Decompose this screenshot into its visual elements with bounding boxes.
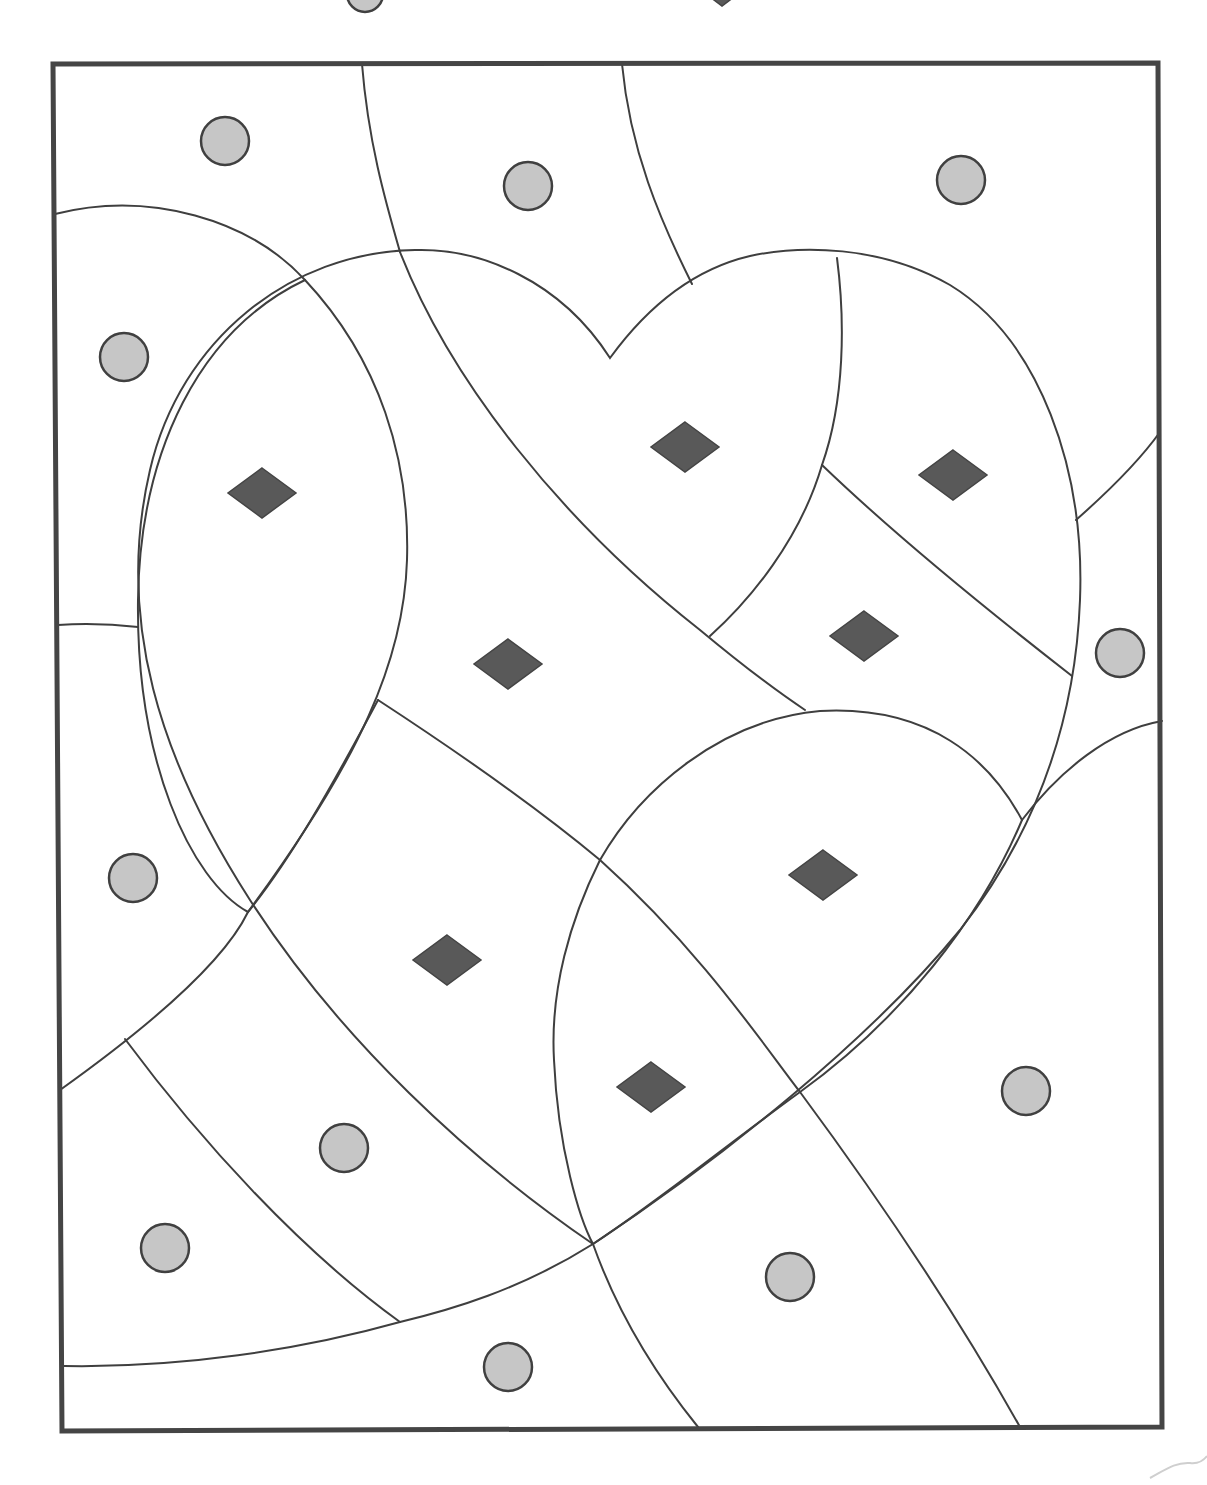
circle-mark-icon — [1096, 629, 1144, 677]
region-curve-0 — [55, 206, 305, 280]
diamond-mark-icon — [617, 1062, 685, 1112]
region-curve-6 — [1076, 432, 1160, 520]
circle-mark-icon — [937, 156, 985, 204]
region-curve-3 — [400, 252, 805, 710]
circle-mark-icon — [100, 333, 148, 381]
legend-cropped — [347, 0, 738, 12]
region-outlines — [55, 64, 1162, 1427]
circle-mark-icon — [1002, 1067, 1050, 1115]
region-curve-2 — [622, 64, 692, 284]
diamond-mark-icon — [830, 611, 898, 661]
circle-mark-icon — [109, 854, 157, 902]
diamond-mark-icon — [413, 935, 481, 985]
circle-mark-icon — [141, 1224, 189, 1272]
region-curve-15 — [248, 700, 378, 912]
diamond-mark-icon — [228, 468, 296, 518]
region-curve-8 — [600, 711, 1022, 860]
diamond-mark-icon — [651, 422, 719, 472]
legend-circle-icon — [347, 0, 383, 12]
region-curve-14 — [58, 624, 138, 627]
heart-outline — [138, 250, 1080, 1244]
picture-frame — [53, 63, 1162, 1431]
circle-mark-icon — [504, 162, 552, 210]
page-curl-mark — [1150, 1456, 1207, 1478]
circle-mark-icon — [201, 117, 249, 165]
region-curve-12 — [60, 912, 248, 1090]
region-curve-10 — [1022, 721, 1162, 820]
region-curve-9 — [553, 860, 698, 1427]
circle-marks — [100, 117, 1144, 1391]
diamond-mark-icon — [919, 450, 987, 500]
region-curve-7 — [378, 700, 1020, 1427]
diamond-mark-icon — [474, 639, 542, 689]
region-curve-11 — [64, 820, 1022, 1366]
region-curve-1 — [362, 64, 400, 252]
circle-mark-icon — [320, 1124, 368, 1172]
region-curve-13 — [125, 1039, 400, 1322]
legend-diamond-icon — [706, 0, 738, 6]
leaf-outline — [138, 280, 407, 912]
circle-mark-icon — [766, 1253, 814, 1301]
circle-mark-icon — [484, 1343, 532, 1391]
region-curve-4 — [710, 258, 842, 636]
diamond-mark-icon — [789, 850, 857, 900]
coloring-canvas — [0, 0, 1207, 1485]
